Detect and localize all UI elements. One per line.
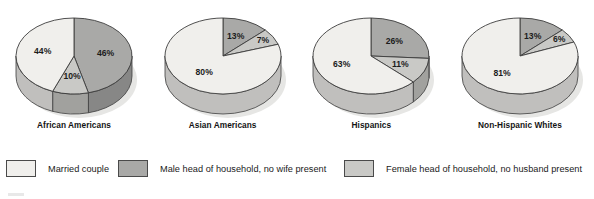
pie-graphic: 26%11%63% [297,0,445,118]
pie-slice-label: 80% [195,67,213,77]
legend: Married couple Male head of household, n… [0,152,594,192]
pie-chart-figure: 46%10%44% African Americans 13%7%80% Asi… [0,0,594,199]
legend-item-female-head: Female head of household, no husband pre… [344,160,582,177]
pie-graphic: 13%7%80% [149,0,297,118]
legend-label: Married couple [48,164,109,174]
pie-slice-label: 6% [553,34,566,44]
legend-swatch [118,160,148,177]
pie-chart-asian-americans: 13%7%80% Asian Americans [149,0,297,140]
pie-slice-label: 81% [493,68,511,78]
pie-slice-label: 11% [392,59,409,69]
pie-slice-label: 46% [97,48,115,58]
legend-label: Male head of household, no wife present [160,164,326,174]
legend-item-married-couple: Married couple [6,160,109,177]
pie-chart-hispanics: 26%11%63% Hispanics [297,0,445,140]
pie-chart-row: 46%10%44% African Americans 13%7%80% Asi… [0,0,594,140]
pie-slice-label: 26% [386,36,404,46]
pie-title: Asian Americans [149,120,297,130]
pie-title: Hispanics [297,120,445,130]
pie-slice-label: 13% [227,31,245,41]
pie-title: Non-Hispanic Whites [446,120,594,130]
legend-item-male-head: Male head of household, no wife present [118,160,326,177]
pie-graphic: 46%10%44% [0,0,148,118]
legend-swatch [344,160,374,177]
pie-graphic: 13%6%81% [446,0,594,118]
pie-slice-label: 13% [524,31,542,41]
pie-slice-label: 10% [63,71,81,81]
pie-slice-label: 7% [256,35,269,45]
legend-swatch [6,160,36,177]
pie-slice-label: 44% [34,46,52,56]
pie-title: African Americans [0,120,148,130]
pie-chart-non-hispanic-whites: 13%6%81% Non-Hispanic Whites [446,0,594,140]
legend-label: Female head of household, no husband pre… [386,164,582,174]
page-edge-artifact [8,193,24,196]
pie-chart-african-americans: 46%10%44% African Americans [0,0,148,140]
pie-slice-label: 63% [333,59,351,69]
